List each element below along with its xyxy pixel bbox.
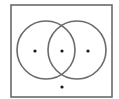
point-outside-both (60, 85, 63, 88)
right-set-circle (48, 21, 106, 79)
point-left-only (33, 49, 36, 52)
point-intersection (60, 49, 63, 52)
point-right-only (86, 49, 89, 52)
venn-diagram-svg (0, 0, 119, 99)
left-set-circle (17, 21, 75, 79)
venn-diagram (0, 0, 119, 99)
